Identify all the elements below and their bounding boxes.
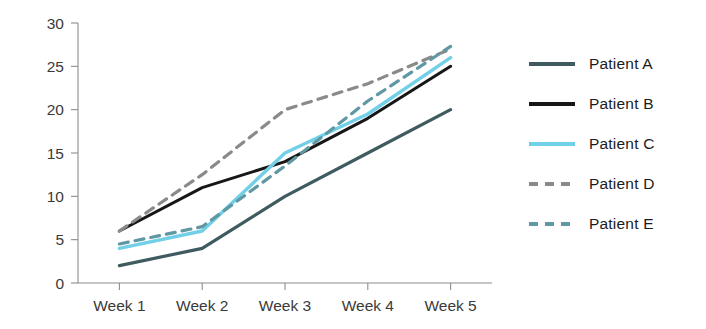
x-tick-label: Week 2 xyxy=(176,297,228,314)
y-tick-label: 10 xyxy=(47,188,65,205)
y-tick-label: 25 xyxy=(47,58,64,75)
legend-item-patient-c[interactable]: Patient C xyxy=(528,124,706,164)
chart-figure: 051015202530Week 1Week 2Week 3Week 4Week… xyxy=(0,0,706,329)
legend-swatch-icon xyxy=(528,217,576,231)
legend-label: Patient E xyxy=(589,215,654,233)
legend-label: Patient B xyxy=(589,95,654,113)
x-tick-label: Week 4 xyxy=(342,297,395,314)
legend-item-patient-e[interactable]: Patient E xyxy=(528,204,706,244)
chart-legend: Patient APatient BPatient CPatient DPati… xyxy=(528,44,706,244)
legend-item-patient-a[interactable]: Patient A xyxy=(528,44,706,84)
legend-item-patient-d[interactable]: Patient D xyxy=(528,164,706,204)
legend-swatch-icon xyxy=(528,177,576,191)
legend-label: Patient D xyxy=(589,175,655,193)
legend-swatch-icon xyxy=(528,57,576,71)
series-line-patient-a xyxy=(119,110,450,266)
y-tick-label: 0 xyxy=(55,275,64,292)
legend-swatch-icon xyxy=(528,137,576,151)
series-line-patient-e xyxy=(119,46,450,244)
legend-swatch-icon xyxy=(528,97,576,111)
y-tick-label: 20 xyxy=(47,101,65,118)
x-tick-label: Week 3 xyxy=(259,297,311,314)
legend-label: Patient C xyxy=(589,135,655,153)
y-tick-label: 5 xyxy=(55,231,64,248)
series-line-patient-c xyxy=(119,58,450,249)
line-chart-svg: 051015202530Week 1Week 2Week 3Week 4Week… xyxy=(0,0,520,329)
plot-area: 051015202530Week 1Week 2Week 3Week 4Week… xyxy=(0,0,520,329)
x-tick-label: Week 5 xyxy=(424,297,476,314)
legend-item-patient-b[interactable]: Patient B xyxy=(528,84,706,124)
y-tick-label: 30 xyxy=(47,15,65,32)
legend-label: Patient A xyxy=(589,55,653,73)
y-tick-label: 15 xyxy=(47,145,64,162)
x-tick-label: Week 1 xyxy=(93,297,145,314)
